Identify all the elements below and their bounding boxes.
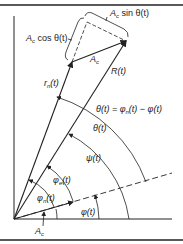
phi-label: φ(t)	[81, 207, 95, 217]
cos-projection-dashed	[72, 22, 87, 62]
ac-bottom-label: Ac	[34, 226, 44, 237]
R-label: R(t)	[111, 66, 126, 76]
phi-arc	[95, 195, 99, 219]
ac-vector-label: Ac	[89, 54, 99, 65]
psi-label: ψ(t)	[86, 153, 101, 163]
ac-sin-label: Ac sin θ(t)	[109, 8, 149, 19]
psi-arc	[69, 134, 129, 219]
sin-projection-dashed	[87, 22, 126, 41]
ac-pointer	[43, 212, 44, 226]
ac-cos-label: Ac cos θ(t)	[25, 33, 68, 44]
theta-label: θ(t)	[93, 123, 106, 133]
cos-brace	[65, 18, 84, 60]
phasor-diagram: Ac sin θ(t) Ac cos θ(t) Ac R(t) rn(t) θ(…	[0, 0, 183, 244]
theta-equation-label: θ(t) = φn(t) − φ(t)	[96, 104, 162, 115]
rn-label: rn(t)	[44, 78, 59, 89]
ac-angle-arc	[56, 209, 57, 219]
phi-n-label: φn(t)	[37, 193, 55, 204]
phi-e-label: φe(t)	[53, 175, 71, 186]
